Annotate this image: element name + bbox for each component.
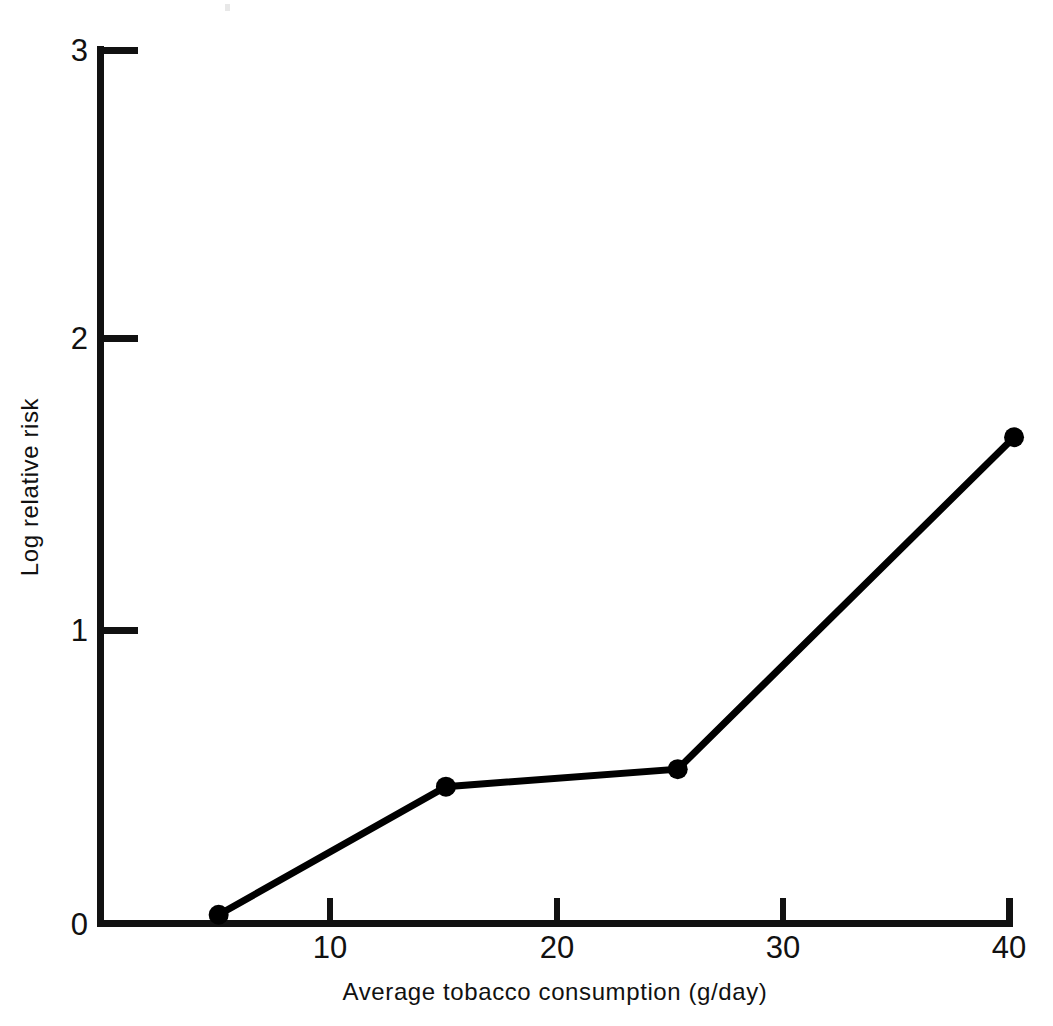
x-tick-label-40: 40 bbox=[992, 930, 1026, 965]
x-tick-mark-30 bbox=[780, 898, 786, 920]
chart-canvas: 3 2 1 0 10 20 30 40 Average tobacco cons… bbox=[0, 0, 1053, 1026]
chart-figure: 3 2 1 0 10 20 30 40 Average tobacco cons… bbox=[0, 0, 1053, 1026]
y-tick-mark-2 bbox=[104, 335, 138, 342]
y-tick-mark-3 bbox=[104, 47, 138, 54]
x-tick-mark-40 bbox=[1006, 898, 1013, 920]
y-tick-label-3: 3 bbox=[71, 33, 88, 68]
data-point bbox=[209, 905, 229, 925]
series-line bbox=[219, 437, 1014, 915]
data-point bbox=[436, 777, 456, 797]
x-tick-label-30: 30 bbox=[766, 930, 800, 965]
y-tick-label-1: 1 bbox=[71, 613, 88, 648]
y-axis-title: Log relative risk bbox=[16, 397, 43, 576]
x-axis-line bbox=[97, 920, 1013, 927]
data-series-group bbox=[209, 427, 1024, 925]
y-tick-label-0: 0 bbox=[71, 907, 88, 942]
x-tick-label-20: 20 bbox=[540, 930, 574, 965]
scan-artifact bbox=[225, 4, 230, 11]
data-point bbox=[1004, 427, 1024, 447]
x-tick-mark-20 bbox=[554, 898, 560, 920]
y-tick-label-2: 2 bbox=[71, 321, 88, 356]
y-tick-mark-1 bbox=[104, 627, 138, 634]
x-tick-label-10: 10 bbox=[313, 930, 347, 965]
y-axis-line bbox=[97, 46, 104, 927]
x-tick-mark-10 bbox=[327, 898, 333, 920]
data-point bbox=[668, 759, 688, 779]
x-axis-title: Average tobacco consumption (g/day) bbox=[343, 978, 768, 1005]
